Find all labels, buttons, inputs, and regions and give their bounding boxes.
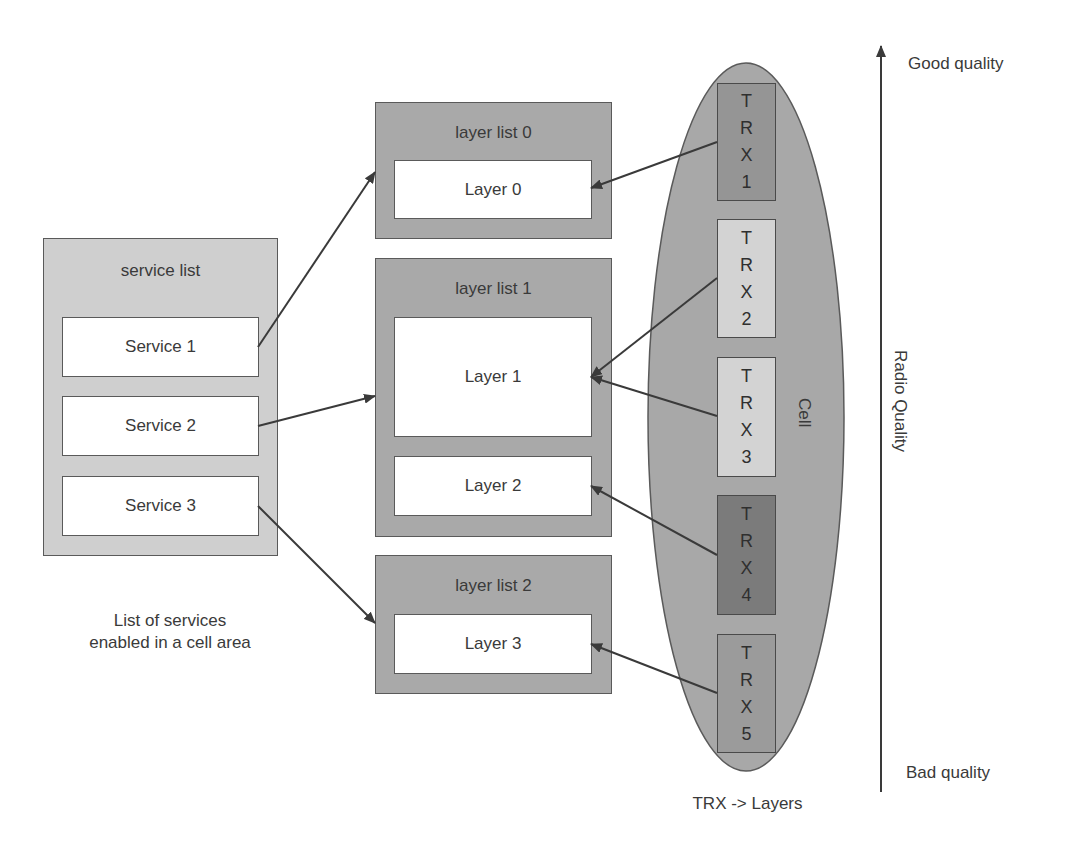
bad-quality-label: Bad quality: [906, 763, 990, 783]
trx-5-char: T: [741, 640, 752, 667]
trx-1-char: R: [740, 115, 753, 142]
trx-4-char: R: [740, 528, 753, 555]
layer-3-box: Layer 3: [394, 614, 592, 674]
trx-2-char: X: [740, 279, 752, 306]
service-3-label: Service 3: [125, 496, 196, 516]
trx-2-number: 2: [741, 306, 751, 333]
trx-3-number: 3: [741, 444, 751, 471]
layer-3-label: Layer 3: [465, 634, 522, 654]
service-caption-line-1: List of services: [40, 610, 300, 632]
service-2-box: Service 2: [62, 396, 259, 456]
service-2-label: Service 2: [125, 416, 196, 436]
trx-4-char: T: [741, 501, 752, 528]
layer-list-2-title: layer list 2: [376, 576, 611, 596]
layer-2-label: Layer 2: [465, 476, 522, 496]
service-3-box: Service 3: [62, 476, 259, 536]
radio-quality-label: Radio Quality: [890, 350, 910, 452]
layer-0-label: Layer 0: [465, 180, 522, 200]
trx-3-char: T: [741, 363, 752, 390]
trx-4-box: T R X 4: [717, 495, 776, 615]
trx-1-char: T: [741, 88, 752, 115]
layer-2-box: Layer 2: [394, 456, 592, 516]
trx-5-char: R: [740, 667, 753, 694]
service-caption-line-2: enabled in a cell area: [40, 632, 300, 654]
good-quality-label: Good quality: [908, 54, 1003, 74]
trx-5-box: T R X 5: [717, 634, 776, 753]
trx-4-number: 4: [741, 582, 751, 609]
trx-2-box: T R X 2: [717, 219, 776, 338]
service-1-box: Service 1: [62, 317, 259, 377]
trx-3-box: T R X 3: [717, 357, 776, 477]
layer-0-box: Layer 0: [394, 160, 592, 219]
service-list-caption: List of services enabled in a cell area: [40, 610, 300, 654]
trx-3-char: X: [740, 417, 752, 444]
trx-5-char: X: [740, 694, 752, 721]
trx-2-char: T: [741, 225, 752, 252]
cell-label: Cell: [794, 398, 814, 427]
trx-1-number: 1: [741, 169, 751, 196]
trx-3-char: R: [740, 390, 753, 417]
trx-2-char: R: [740, 252, 753, 279]
trx-1-char: X: [740, 142, 752, 169]
layer-list-0-title: layer list 0: [376, 123, 611, 143]
trx-1-box: T R X 1: [717, 83, 776, 201]
layer-list-1-title: layer list 1: [376, 279, 611, 299]
trx-layers-caption: TRX -> Layers: [690, 794, 805, 814]
layer-1-box: Layer 1: [394, 317, 592, 437]
trx-5-number: 5: [741, 721, 751, 748]
trx-4-char: X: [740, 555, 752, 582]
service-list-title: service list: [44, 261, 277, 281]
service-1-label: Service 1: [125, 337, 196, 357]
layer-1-label: Layer 1: [465, 367, 522, 387]
